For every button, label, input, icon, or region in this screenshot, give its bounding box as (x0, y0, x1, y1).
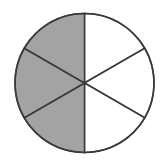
fraction-circle-diagram (0, 0, 162, 161)
